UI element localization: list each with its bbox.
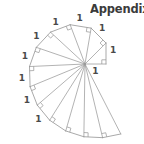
unit-length-label-1: 1 bbox=[99, 23, 105, 33]
spiral-hypotenuse-group bbox=[30, 25, 121, 138]
unit-leg-12 bbox=[103, 134, 121, 138]
unit-length-label-6: 1 bbox=[19, 73, 25, 83]
unit-leg-9 bbox=[50, 120, 66, 131]
spiral-hypotenuse-11 bbox=[84, 64, 85, 137]
unit-length-label-0: 1 bbox=[110, 45, 116, 55]
right-angle-marker-0 bbox=[102, 60, 106, 64]
right-angle-marker-4 bbox=[48, 35, 54, 38]
right-angle-marker-11 bbox=[84, 133, 88, 137]
spiral-hypotenuse-4 bbox=[50, 32, 85, 64]
unit-leg-6 bbox=[30, 67, 31, 87]
figure-root: 1111111111 Appendix. bbox=[0, 0, 144, 144]
unit-leg-5 bbox=[30, 47, 37, 66]
unit-length-label-2: 1 bbox=[77, 13, 83, 23]
right-angle-marker-6 bbox=[30, 66, 34, 70]
spiral-hypotenuse-3 bbox=[70, 25, 85, 64]
spiral-hypotenuse-8 bbox=[37, 64, 85, 105]
unit-leg-10 bbox=[66, 131, 84, 137]
unit-length-label-base: 1 bbox=[92, 66, 98, 76]
right-angle-marker-8 bbox=[40, 102, 43, 108]
spiral-hypotenuse-5 bbox=[36, 47, 85, 64]
unit-length-label-8: 1 bbox=[35, 114, 41, 124]
unit-leg-11 bbox=[84, 137, 103, 138]
unit-length-label-3: 1 bbox=[53, 17, 59, 27]
right-angle-marker-1 bbox=[100, 40, 103, 46]
spiral-hypotenuse-7 bbox=[30, 64, 85, 87]
unit-length-label-4: 1 bbox=[33, 31, 39, 41]
spiral-hypotenuse-6 bbox=[30, 64, 86, 67]
spiral-hypotenuse-9 bbox=[50, 64, 85, 120]
unit-leg-2 bbox=[70, 25, 91, 28]
unit-length-label-7: 1 bbox=[24, 95, 30, 105]
spiral-hypotenuse-13 bbox=[85, 64, 121, 134]
page-title: Appendix. bbox=[90, 3, 144, 16]
unit-length-label-5: 1 bbox=[22, 51, 28, 61]
spiral-of-theodorus-figure: 1111111111 bbox=[0, 0, 144, 144]
spiral-hypotenuse-10 bbox=[66, 64, 85, 131]
